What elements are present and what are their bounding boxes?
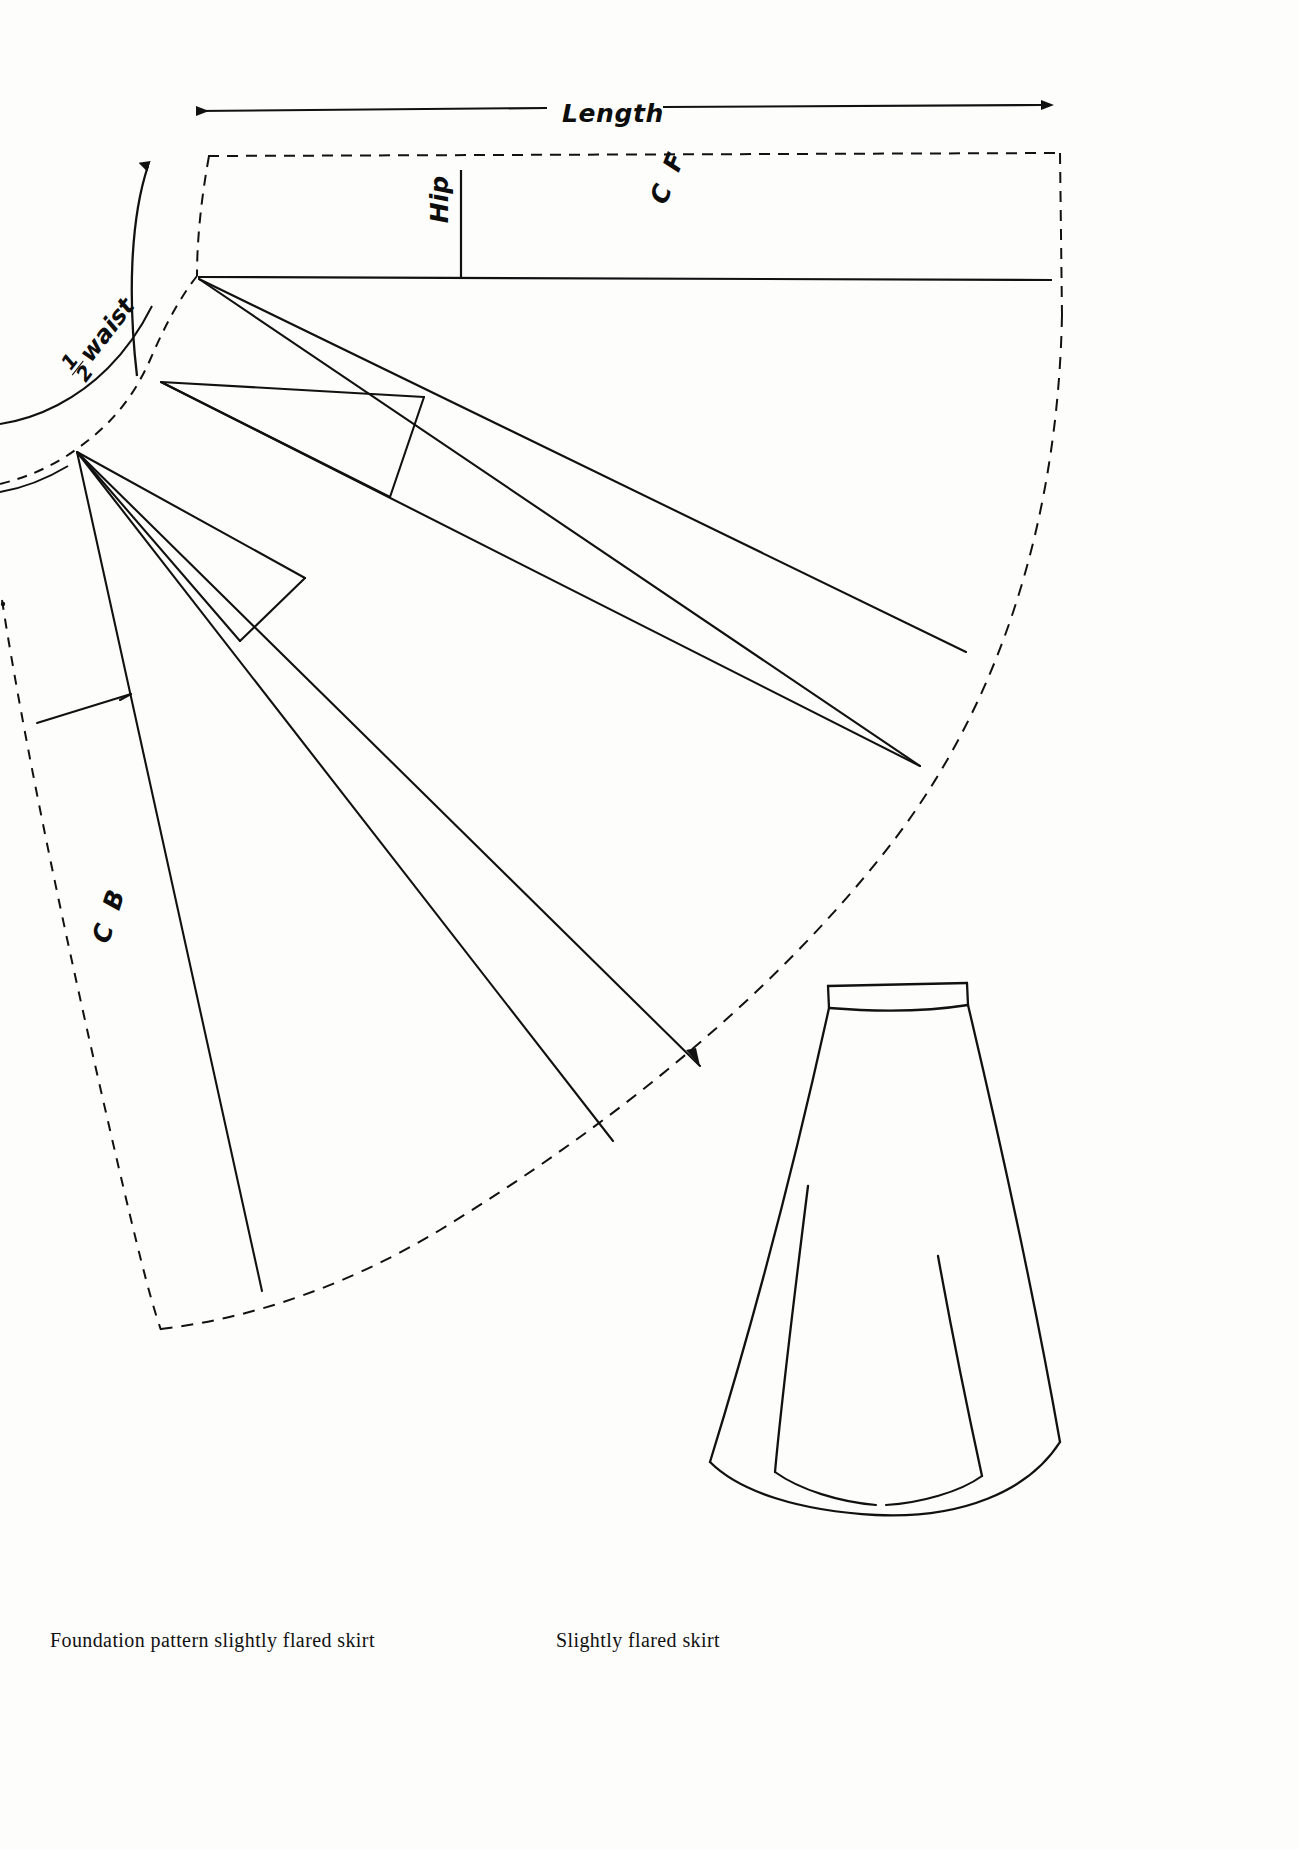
caption-slightly-flared-skirt: Slightly flared skirt xyxy=(556,1629,720,1652)
waist-curve-dashed xyxy=(0,276,197,484)
page-canvas: Length Hip C F C B 1 2 waist Foundation … xyxy=(0,0,1298,1849)
flare-arrow-tip xyxy=(686,1048,700,1066)
pattern-figure xyxy=(0,0,1298,1849)
waist-horizontal-line xyxy=(198,277,1052,280)
flare-lines xyxy=(37,279,966,1291)
foundation-block-dashed-outline xyxy=(197,153,1062,315)
skirt-left-side-seam xyxy=(710,1008,829,1462)
skirt-illustration xyxy=(710,983,1060,1515)
half-waist-curved-arrow xyxy=(132,166,148,376)
skirt-seam-line-left xyxy=(775,1186,808,1472)
caption-foundation-pattern: Foundation pattern slightly flared skirt xyxy=(50,1629,375,1652)
skirt-hem xyxy=(710,1442,1060,1515)
skirt-waistband xyxy=(828,983,968,1010)
skirt-seam-line-right xyxy=(938,1256,982,1476)
hip-label: Hip xyxy=(425,176,454,223)
length-label: Length xyxy=(562,99,664,128)
skirt-hem-inner-right xyxy=(886,1476,982,1505)
skirt-right-side-seam xyxy=(968,1005,1060,1442)
waist-guide-arcs xyxy=(0,306,152,492)
skirt-hem-inner-left xyxy=(775,1472,876,1505)
hem-curve-dashed xyxy=(161,315,1062,1329)
